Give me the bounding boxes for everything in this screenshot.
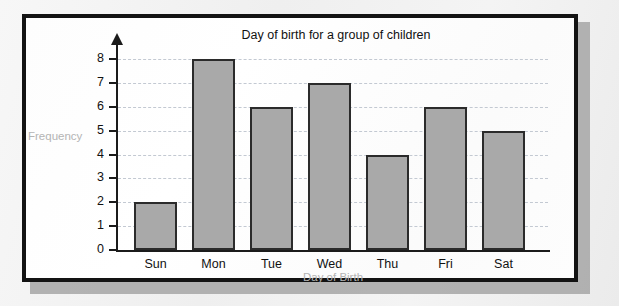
bar-thu — [366, 155, 409, 251]
x-axis-tick-label-sat: Sat — [472, 257, 535, 271]
x-axis-tick-label-thu: Thu — [356, 257, 419, 271]
y-axis-line — [116, 42, 118, 251]
y-axis-tick-label: 2 — [76, 194, 104, 208]
gridline — [118, 59, 548, 60]
bar-sun — [134, 202, 177, 250]
bar-mon — [192, 59, 235, 250]
y-axis-tick-label: 7 — [76, 75, 104, 89]
y-axis-arrow-icon — [111, 33, 123, 45]
y-axis-tick-label: 0 — [76, 242, 104, 256]
x-axis-tick-label-tue: Tue — [240, 257, 303, 271]
y-axis-tick-label: 4 — [76, 147, 104, 161]
x-axis-line — [116, 250, 550, 252]
chart-title: Day of birth for a group of children — [136, 28, 536, 42]
x-axis-tick-label-mon: Mon — [182, 257, 245, 271]
chart-card: Day of birth for a group of children 012… — [22, 14, 578, 282]
y-axis-tick-label: 6 — [76, 99, 104, 113]
bar-wed — [308, 83, 351, 250]
bar-chart: Day of birth for a group of children 012… — [26, 18, 574, 278]
bar-sat — [482, 131, 525, 250]
y-axis-tick-label: 8 — [76, 51, 104, 65]
y-axis-title: Frequency — [28, 130, 82, 142]
bar-tue — [250, 107, 293, 250]
y-axis-tick-label: 3 — [76, 170, 104, 184]
y-axis-tick-label: 1 — [76, 218, 104, 232]
x-axis-tick-label-fri: Fri — [414, 257, 477, 271]
x-axis-tick-label-sun: Sun — [124, 257, 187, 271]
x-axis-tick-label-wed: Wed — [298, 257, 361, 271]
bar-fri — [424, 107, 467, 250]
x-axis-title: Day of Birth — [116, 271, 550, 283]
